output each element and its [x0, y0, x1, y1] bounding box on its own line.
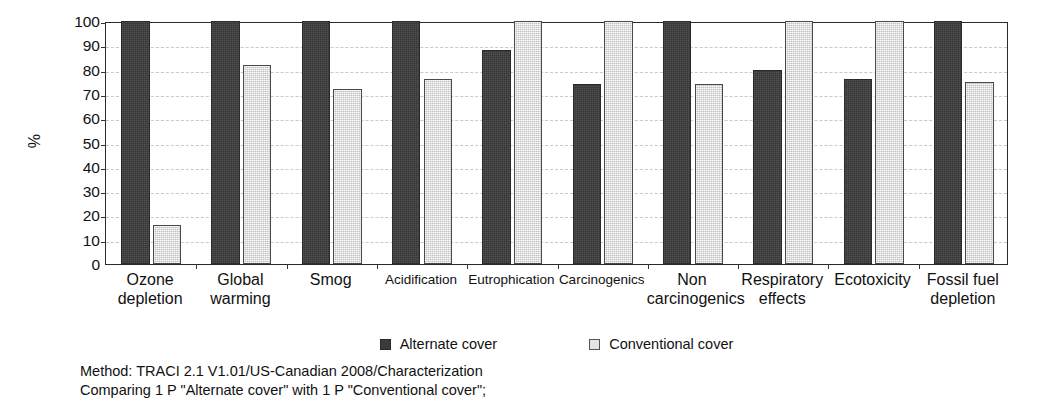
bar-alternate	[211, 21, 239, 264]
bar-conventional	[695, 84, 723, 264]
y-tick-label: 20	[52, 209, 100, 225]
legend-entry: Conventional cover	[589, 336, 733, 352]
x-category-label: Non carcinogenics	[647, 270, 737, 308]
x-axis-tick	[287, 264, 288, 269]
bar-alternate	[121, 21, 149, 264]
x-category-label: Respiratory effects	[737, 270, 827, 308]
filled-square-icon	[380, 339, 391, 350]
y-tick-label: 90	[52, 39, 100, 55]
bar-group	[377, 23, 467, 264]
x-axis-tick	[919, 264, 920, 269]
bar-group	[196, 23, 286, 264]
y-tick-label: 60	[52, 111, 100, 127]
bar-alternate	[663, 21, 691, 264]
bar-group	[106, 23, 196, 264]
x-axis-tick	[558, 264, 559, 269]
bar-group	[738, 23, 828, 264]
chart-legend: Alternate coverConventional cover	[105, 333, 1008, 355]
legend-label: Alternate cover	[400, 336, 498, 352]
bar-group	[558, 23, 648, 264]
legend-label: Conventional cover	[609, 336, 733, 352]
x-category-label: Eutrophication	[466, 270, 556, 289]
bar-conventional	[785, 21, 813, 264]
y-tick-label: 100	[52, 14, 100, 30]
x-axis-tick	[738, 264, 739, 269]
x-category-label: Acidification	[376, 270, 466, 289]
bar-alternate	[392, 21, 420, 264]
bar-conventional	[875, 21, 903, 264]
x-axis-tick	[648, 264, 649, 269]
x-category-label: Ecotoxicity	[827, 270, 917, 289]
bar-alternate	[844, 79, 872, 264]
bar-group	[467, 23, 557, 264]
bar-conventional	[333, 89, 361, 264]
x-category-label: Smog	[286, 270, 376, 289]
legend-entry: Alternate cover	[380, 336, 498, 352]
y-tick-label: 40	[52, 160, 100, 176]
bar-alternate	[753, 70, 781, 264]
bar-group	[287, 23, 377, 264]
x-category-label: Carcinogenics	[557, 270, 647, 289]
footer-comparison-line: Comparing 1 P "Alternate cover" with 1 P…	[80, 381, 880, 400]
plot-area	[105, 22, 1008, 265]
bar-alternate	[302, 21, 330, 264]
x-category-label: Fossil fuel depletion	[918, 270, 1008, 308]
x-axis-category-labels: Ozone depletionGlobal warmingSmogAcidifi…	[105, 270, 1008, 316]
x-axis-tick	[828, 264, 829, 269]
bar-alternate	[482, 50, 510, 264]
y-tick-label: 70	[52, 87, 100, 103]
x-category-label: Global warming	[195, 270, 285, 308]
x-axis-tick	[377, 264, 378, 269]
y-tick-label: 50	[52, 136, 100, 152]
bar-group	[919, 23, 1009, 264]
bar-alternate	[573, 84, 601, 264]
y-tick-label: 80	[52, 63, 100, 79]
bar-group	[828, 23, 918, 264]
footer-method-line: Method: TRACI 2.1 V1.01/US-Canadian 2008…	[80, 362, 880, 381]
bar-conventional	[604, 21, 632, 264]
y-tick-label: 0	[52, 257, 100, 273]
bar-group	[648, 23, 738, 264]
chart-footer: Method: TRACI 2.1 V1.01/US-Canadian 2008…	[80, 362, 880, 400]
y-tick-label: 30	[52, 184, 100, 200]
y-axis-title: %	[26, 128, 44, 154]
x-category-label: Ozone depletion	[105, 270, 195, 308]
y-axis-tick-labels: 0102030405060708090100	[52, 22, 100, 265]
outlined-square-icon	[589, 339, 600, 350]
bar-conventional	[424, 79, 452, 264]
bar-conventional	[243, 65, 271, 264]
bar-chart: % 0102030405060708090100 Ozone depletion…	[0, 0, 1040, 402]
x-axis-tick	[196, 264, 197, 269]
y-tick-label: 10	[52, 233, 100, 249]
bar-alternate	[934, 21, 962, 264]
bar-conventional	[965, 82, 993, 264]
bar-conventional	[153, 225, 181, 264]
bar-conventional	[514, 21, 542, 264]
x-axis-tick	[467, 264, 468, 269]
